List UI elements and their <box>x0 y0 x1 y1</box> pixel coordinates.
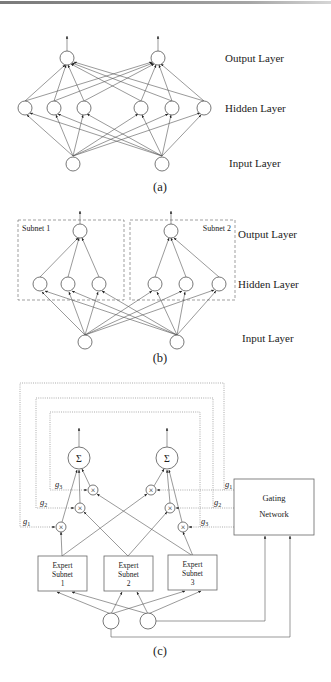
gate-label-g3-right: g3 <box>201 516 208 527</box>
expert-subnet-2: Expert Subnet 2 <box>104 556 153 591</box>
input-node <box>170 335 184 349</box>
hidden-node <box>33 277 47 291</box>
svg-text:Expert: Expert <box>183 560 204 569</box>
input-layer-label: Input Layer <box>242 332 294 344</box>
multiply-icon: × <box>78 504 83 513</box>
gate-label-g1-right: g1 <box>225 479 232 490</box>
output-node <box>73 224 87 238</box>
hidden-layer-label: Hidden Layer <box>238 278 299 290</box>
gate-label-g3-left: g3 <box>55 479 62 490</box>
input-node <box>155 157 169 171</box>
hidden-node <box>148 277 162 291</box>
panel-c: Σ Σ × × × × × × g3 g2 g1 g1 g2 g3 Gating… <box>20 383 314 658</box>
hidden-node <box>165 101 179 115</box>
hidden-layer-label: Hidden Layer <box>225 102 286 114</box>
hidden-node <box>197 101 211 115</box>
hidden-node <box>61 277 75 291</box>
gate-label-g2-left: g2 <box>40 497 47 508</box>
svg-text:1: 1 <box>61 579 65 588</box>
gating-label-line1: Gating <box>262 493 286 503</box>
output-layer-label: Output Layer <box>225 52 284 64</box>
output-node <box>151 51 165 65</box>
expert-subnet-1: Expert Subnet 1 <box>38 556 87 591</box>
svg-text:Subnet: Subnet <box>52 570 74 579</box>
output-node <box>164 224 178 238</box>
multiply-icon: × <box>59 523 64 532</box>
multiply-icon: × <box>149 486 154 495</box>
input-hidden-edges <box>27 113 201 156</box>
svg-text:Subnet: Subnet <box>182 569 204 578</box>
hidden-node <box>134 101 148 115</box>
multiply-icon: × <box>181 523 186 532</box>
panel-b: Subnet 1 Subnet 2 <box>18 211 299 365</box>
hidden-node <box>92 277 106 291</box>
caption-a: (a) <box>153 180 167 194</box>
multiply-icon: × <box>168 504 173 513</box>
svg-text:Expert: Expert <box>119 561 140 570</box>
gate-label-g2-right: g2 <box>214 497 221 508</box>
panel-a: Output Layer Hidden Layer Input Layer (a… <box>18 36 286 194</box>
svg-text:Subnet: Subnet <box>118 570 140 579</box>
svg-text:Expert: Expert <box>53 561 74 570</box>
subnet-2-label: Subnet 2 <box>203 224 231 233</box>
output-node <box>60 51 74 65</box>
input-hidden-edges <box>42 290 216 335</box>
hidden-node <box>47 101 61 115</box>
output-layer-label: Output Layer <box>238 228 297 240</box>
multiply-icon: × <box>91 486 96 495</box>
gate-label-g1-left: g1 <box>23 516 30 527</box>
expert-subnet-3: Expert Subnet 3 <box>168 555 217 590</box>
caption-c: (c) <box>153 644 167 658</box>
input-layer-label: Input Layer <box>229 157 281 169</box>
input-node <box>78 335 92 349</box>
gating-label-line2: Network <box>259 509 289 519</box>
hidden-node <box>18 101 32 115</box>
svg-text:3: 3 <box>191 578 195 587</box>
hidden-node <box>77 101 91 115</box>
subnet-1-label: Subnet 1 <box>22 224 50 233</box>
sigma-icon: Σ <box>164 453 170 464</box>
input-node <box>66 157 80 171</box>
hidden-node <box>212 277 226 291</box>
gate-feedback-loops <box>20 383 234 527</box>
multiplier-sum-edges <box>62 469 182 522</box>
caption-b: (b) <box>153 351 168 365</box>
gating-network-box <box>234 479 314 535</box>
input-expert-edges <box>57 591 201 614</box>
sigma-icon: Σ <box>76 453 82 464</box>
input-node <box>140 613 156 629</box>
figure-canvas: Output Layer Hidden Layer Input Layer (a… <box>0 0 331 682</box>
hidden-node <box>179 277 193 291</box>
hidden-output-edges <box>40 238 219 277</box>
svg-text:2: 2 <box>127 579 131 588</box>
input-node <box>103 613 119 629</box>
hidden-output-edges <box>25 62 204 101</box>
multiplier-nodes: × × × × × × <box>56 485 188 532</box>
